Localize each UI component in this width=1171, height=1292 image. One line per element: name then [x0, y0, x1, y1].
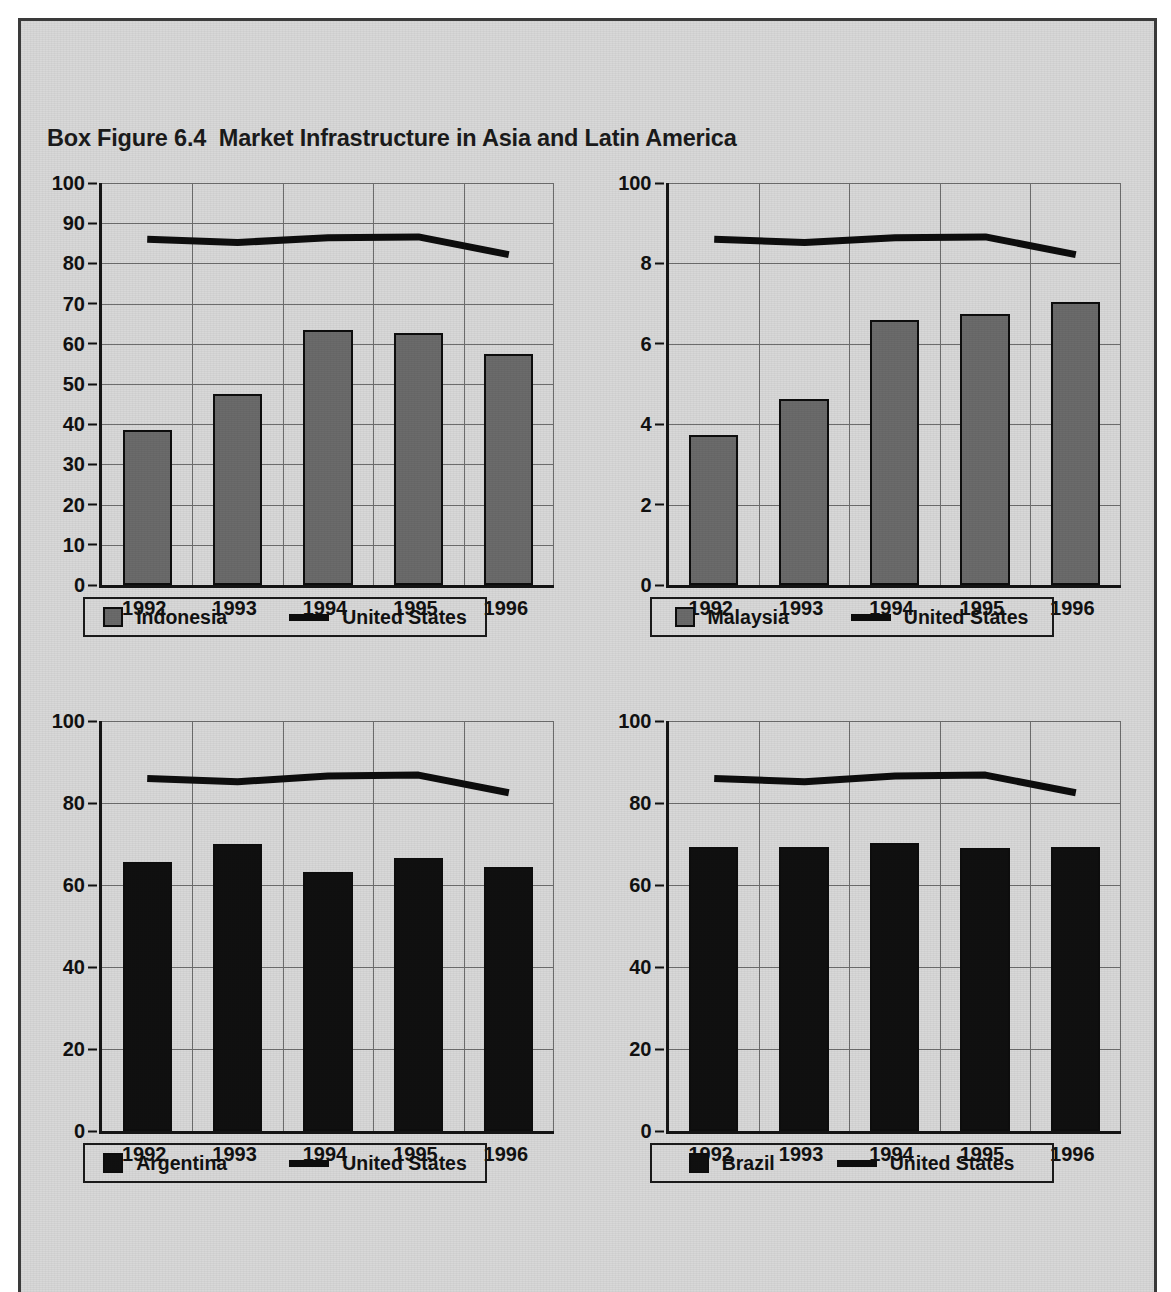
- chart-row-bottom: 02040608010019921993199419951996Argentin…: [21, 691, 1154, 1231]
- figure-frame: Box Figure 6.4 Market Infrastructure in …: [18, 18, 1157, 1292]
- x-axis-tick-label: 1996: [1050, 597, 1095, 620]
- line-series-layer: [102, 721, 554, 1131]
- chart-legend: MalaysiaUnited States: [650, 597, 1054, 637]
- y-axis-tick-mark: [88, 1130, 97, 1132]
- y-axis-tick-label: 0: [21, 574, 85, 597]
- y-axis-tick-mark: [88, 423, 97, 425]
- y-axis-tick-mark: [88, 720, 97, 722]
- x-axis-tick-label: 1996: [484, 597, 529, 620]
- y-axis-tick-label: 20: [21, 493, 85, 516]
- y-axis-tick-label: 100: [21, 172, 85, 195]
- y-axis-tick-mark: [655, 343, 664, 345]
- y-axis-tick-label: 20: [21, 1038, 85, 1061]
- united-states-line: [147, 775, 509, 793]
- plot-area: [666, 183, 1121, 588]
- chart-grid: 0102030405060708090100199219931994199519…: [21, 171, 1154, 1231]
- y-axis-tick-mark: [88, 262, 97, 264]
- y-axis-tick-mark: [655, 1130, 664, 1132]
- plot-area: [99, 721, 554, 1134]
- y-axis-tick-label: 30: [21, 453, 85, 476]
- y-axis-tick-mark: [655, 423, 664, 425]
- y-axis-tick-mark: [655, 802, 664, 804]
- y-axis-tick-label: 80: [21, 792, 85, 815]
- line-series-layer: [669, 721, 1121, 1131]
- chart-legend: ArgentinaUnited States: [83, 1143, 487, 1183]
- chart-legend: IndonesiaUnited States: [83, 597, 487, 637]
- legend-entry-bar: Indonesia: [103, 606, 227, 629]
- line-series-layer: [669, 183, 1121, 585]
- y-axis-tick-label: 40: [21, 413, 85, 436]
- plot-area: [666, 721, 1121, 1134]
- y-axis-tick-mark: [88, 1048, 97, 1050]
- y-axis-tick-mark: [88, 463, 97, 465]
- y-axis-tick-mark: [88, 303, 97, 305]
- legend-label-bar: Brazil: [722, 1152, 775, 1175]
- y-axis-tick-mark: [88, 884, 97, 886]
- y-axis-tick-label: 70: [21, 292, 85, 315]
- legend-label-line: United States: [904, 606, 1029, 629]
- chart-panel-argentina: 02040608010019921993199419951996Argentin…: [21, 691, 588, 1231]
- y-axis-tick-label: 6: [588, 332, 652, 355]
- y-axis-tick-mark: [88, 383, 97, 385]
- y-axis-tick-label: 100: [588, 172, 652, 195]
- y-axis-tick-label: 60: [21, 874, 85, 897]
- legend-line-icon: [851, 614, 891, 621]
- y-axis-tick-label: 50: [21, 373, 85, 396]
- y-axis-tick-mark: [655, 1048, 664, 1050]
- y-axis-tick-label: 20: [588, 1038, 652, 1061]
- legend-entry-bar: Brazil: [689, 1152, 775, 1175]
- plot-area: [99, 183, 554, 588]
- y-axis-tick-mark: [655, 262, 664, 264]
- legend-swatch-icon: [689, 1153, 709, 1173]
- y-axis-tick-mark: [655, 966, 664, 968]
- legend-label-line: United States: [342, 606, 467, 629]
- y-axis-tick-mark: [88, 966, 97, 968]
- y-axis-tick-label: 2: [588, 493, 652, 516]
- figure-title: Box Figure 6.4 Market Infrastructure in …: [47, 125, 737, 152]
- legend-label-bar: Malaysia: [708, 606, 789, 629]
- legend-entry-line: United States: [837, 1152, 1015, 1175]
- legend-line-icon: [289, 1160, 329, 1167]
- legend-label-bar: Argentina: [136, 1152, 227, 1175]
- legend-entry-line: United States: [289, 606, 467, 629]
- y-axis-tick-label: 60: [21, 332, 85, 355]
- legend-entry-line: United States: [289, 1152, 467, 1175]
- y-axis-tick-label: 0: [588, 1120, 652, 1143]
- y-axis-tick-mark: [655, 884, 664, 886]
- y-axis-tick-mark: [88, 504, 97, 506]
- y-axis-tick-label: 100: [21, 710, 85, 733]
- y-axis-tick-label: 40: [588, 956, 652, 979]
- line-series-layer: [102, 183, 554, 585]
- legend-label-line: United States: [342, 1152, 467, 1175]
- y-axis-tick-label: 100: [588, 710, 652, 733]
- y-axis-tick-mark: [88, 584, 97, 586]
- y-axis-tick-label: 4: [588, 413, 652, 436]
- y-axis-tick-label: 80: [588, 792, 652, 815]
- legend-swatch-icon: [103, 607, 123, 627]
- united-states-line: [714, 775, 1076, 793]
- y-axis-tick-label: 80: [21, 252, 85, 275]
- figure-page: Box Figure 6.4 Market Infrastructure in …: [0, 0, 1171, 1292]
- y-axis-tick-label: 10: [21, 533, 85, 556]
- y-axis-tick-label: 90: [21, 212, 85, 235]
- y-axis-tick-mark: [655, 182, 664, 184]
- chart-row-top: 0102030405060708090100199219931994199519…: [21, 171, 1154, 691]
- chart-legend: BrazilUnited States: [650, 1143, 1054, 1183]
- x-axis-tick-label: 1996: [484, 1143, 529, 1166]
- y-axis-tick-mark: [655, 504, 664, 506]
- chart-panel-indonesia: 0102030405060708090100199219931994199519…: [21, 171, 588, 691]
- legend-entry-bar: Argentina: [103, 1152, 227, 1175]
- chart-panel-malaysia: 0246810019921993199419951996MalaysiaUnit…: [588, 171, 1155, 691]
- legend-swatch-icon: [675, 607, 695, 627]
- y-axis-tick-label: 8: [588, 252, 652, 275]
- united-states-line: [147, 237, 509, 255]
- y-axis-tick-mark: [88, 343, 97, 345]
- y-axis-tick-mark: [88, 222, 97, 224]
- y-axis-tick-label: 0: [588, 574, 652, 597]
- y-axis-tick-mark: [88, 182, 97, 184]
- legend-line-icon: [289, 614, 329, 621]
- y-axis-tick-mark: [88, 802, 97, 804]
- y-axis-tick-mark: [655, 584, 664, 586]
- united-states-line: [714, 237, 1076, 255]
- y-axis-tick-label: 60: [588, 874, 652, 897]
